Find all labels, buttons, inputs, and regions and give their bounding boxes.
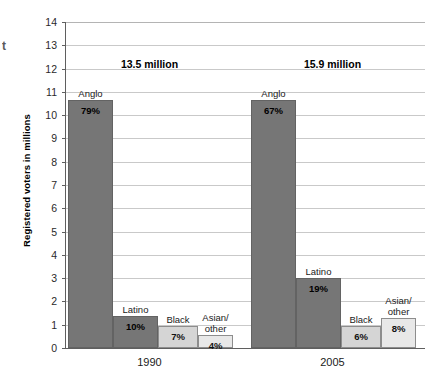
y-axis-tick-label: 11: [27, 86, 57, 98]
y-axis-tick-label: 12: [27, 63, 57, 75]
y-axis-tick: [62, 232, 66, 233]
bar: 8%: [381, 318, 416, 348]
gridline: [66, 208, 425, 209]
gridline: [66, 232, 425, 233]
y-axis-tick: [62, 92, 66, 93]
bar-percentage-label: 7%: [159, 331, 197, 342]
gridline: [66, 255, 425, 256]
y-axis-tick-label: 10: [27, 109, 57, 121]
x-axis-category-label: 1990: [110, 356, 190, 368]
bar: 7%: [158, 326, 198, 348]
y-axis-tick: [62, 138, 66, 139]
bar: 10%: [113, 316, 158, 348]
bar-series-label: Black: [341, 314, 381, 325]
bar: 67%: [251, 100, 296, 348]
bar-percentage-label: 19%: [297, 283, 340, 294]
gridline: [66, 185, 425, 186]
bar-percentage-label: 67%: [252, 105, 295, 116]
bar-series-label: Anglo: [251, 88, 296, 99]
y-axis-tick: [62, 22, 66, 23]
gridline: [66, 278, 425, 279]
bar: 19%: [296, 278, 341, 348]
y-axis-tick: [62, 301, 66, 302]
gridline: [66, 22, 425, 23]
bar-percentage-label: 4%: [199, 340, 232, 351]
y-axis-tick: [62, 348, 66, 349]
group-total-annotation: 15.9 million: [273, 58, 393, 70]
y-axis-tick-label: 9: [27, 132, 57, 144]
bar-series-label: Asian/ other: [198, 312, 233, 334]
bar-series-label: Asian/ other: [381, 295, 416, 317]
cropped-text-fragment: t: [2, 38, 12, 54]
gridline: [66, 92, 425, 93]
bar-series-label: Latino: [113, 304, 158, 315]
y-axis-tick: [62, 69, 66, 70]
bar-series-label: Black: [158, 314, 198, 325]
y-axis-tick-label: 3: [27, 272, 57, 284]
gridline: [66, 115, 425, 116]
y-axis-tick-label: 13: [27, 39, 57, 51]
y-axis-tick-label: 4: [27, 249, 57, 261]
y-axis-tick: [62, 255, 66, 256]
y-axis-tick: [62, 278, 66, 279]
registered-voters-bar-chart: t Registered voters in millions 79%Anglo…: [0, 0, 441, 381]
y-axis-tick: [62, 162, 66, 163]
y-axis-tick: [62, 185, 66, 186]
group-total-annotation: 13.5 million: [90, 58, 210, 70]
bar-percentage-label: 6%: [342, 331, 380, 342]
bar-series-label: Latino: [296, 266, 341, 277]
y-axis-tick-label: 1: [27, 319, 57, 331]
bar-percentage-label: 10%: [114, 321, 157, 332]
gridline: [66, 162, 425, 163]
y-axis-tick: [62, 115, 66, 116]
bar: 4%: [198, 335, 233, 348]
y-axis-tick-label: 2: [27, 295, 57, 307]
y-axis-tick: [62, 325, 66, 326]
bar-percentage-label: 79%: [69, 105, 112, 116]
y-axis-tick-label: 0: [27, 342, 57, 354]
gridline: [66, 301, 425, 302]
y-axis-tick-label: 7: [27, 179, 57, 191]
bar-series-label: Anglo: [68, 88, 113, 99]
gridline: [66, 45, 425, 46]
gridline: [66, 138, 425, 139]
y-axis-tick: [62, 45, 66, 46]
y-axis-tick: [62, 208, 66, 209]
y-axis-tick-label: 14: [27, 16, 57, 28]
x-axis-category-label: 2005: [293, 356, 373, 368]
y-axis-tick-label: 6: [27, 202, 57, 214]
bar: 6%: [341, 326, 381, 348]
bar-percentage-label: 8%: [382, 323, 415, 334]
bar: 79%: [68, 100, 113, 348]
plot-area: 79%Anglo10%Latino7%Black4%Asian/ other67…: [65, 22, 425, 349]
y-axis-tick-label: 5: [27, 226, 57, 238]
y-axis-tick-label: 8: [27, 156, 57, 168]
